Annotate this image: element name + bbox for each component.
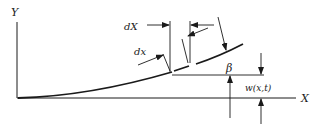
dx-arrow-right — [188, 28, 208, 36]
slope-pointer-arrow — [218, 17, 226, 50]
beam-deflection-diagram: Y X dX dx β w(x,t) — [0, 0, 321, 131]
curve-main — [18, 72, 172, 98]
dx-label: dx — [134, 46, 146, 57]
dx-tick-right — [182, 39, 188, 63]
dx-tick-left — [163, 54, 170, 71]
x-axis-label: X — [300, 92, 310, 105]
y-axis-label: Y — [11, 6, 20, 19]
w-label: w(x,t) — [245, 83, 272, 93]
beta-label: β — [225, 62, 232, 75]
w-dimension: w(x,t) — [172, 53, 272, 124]
curve-element-segment — [174, 66, 189, 71]
slope-indicator: β — [218, 17, 232, 75]
dX-label: dX — [124, 21, 138, 32]
deflection-curve — [18, 44, 243, 98]
curve-continuation — [196, 44, 243, 64]
